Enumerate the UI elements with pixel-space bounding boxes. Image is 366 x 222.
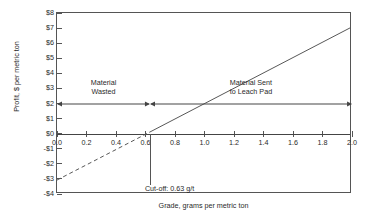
region-label-material-sent-line1: Material Sent — [230, 78, 272, 87]
y-tick-label: $3 — [46, 83, 54, 92]
region-label-material-sent: Material Sent to Leach Pad — [150, 78, 352, 96]
y-tick-label: $1 — [46, 114, 54, 123]
plot-area: $8$7$6$5$4$3$2$1$0-$1-$2-$3-$4 0.00.20.4… — [56, 12, 351, 193]
y-tick-label: $7 — [46, 23, 54, 32]
y-tick-label: $5 — [46, 53, 54, 62]
x-axis-title: Grade, grams per metric ton — [56, 201, 351, 210]
region-label-material-wasted-line1: Material — [91, 78, 117, 87]
cutoff-annotation-label: Cut-off: 0.63 g/t — [145, 184, 194, 193]
region-label-material-wasted-line2: Wasted — [91, 87, 115, 96]
y-tick-label: -$4 — [44, 189, 54, 198]
y-tick-label: $8 — [46, 8, 54, 17]
y-tick-label: -$3 — [44, 174, 54, 183]
y-tick-label: $2 — [46, 99, 54, 108]
profit-line-below-cutoff — [57, 132, 149, 180]
y-tick-mark — [57, 194, 62, 195]
y-tick-label: $6 — [46, 38, 54, 47]
region-label-material-sent-line2: to Leach Pad — [230, 87, 272, 96]
y-tick-label: -$2 — [44, 159, 54, 168]
profit-vs-grade-chart: Profit, $ per metric ton $8$7$6$5$4$3$2$… — [0, 0, 366, 222]
material-wasted-span-arrow — [57, 100, 150, 108]
y-tick-label: $4 — [46, 68, 54, 77]
cutoff-vertical-rule — [150, 134, 151, 185]
y-tick-label: $0 — [46, 129, 54, 138]
x-tick-mark — [352, 131, 353, 137]
y-axis-title: Profit, $ per metric ton — [12, 7, 21, 147]
material-sent-span-arrow — [150, 100, 352, 108]
region-label-material-wasted: Material Wasted — [57, 78, 150, 96]
